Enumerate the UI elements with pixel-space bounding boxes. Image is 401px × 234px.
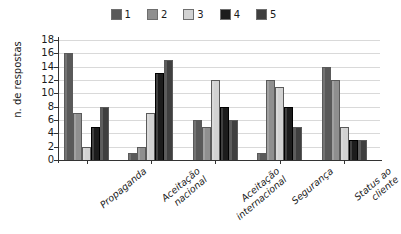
bar-group-2: [128, 40, 173, 160]
bar-series3-cat4[interactable]: [275, 87, 284, 160]
bar-series2-cat3[interactable]: [202, 127, 211, 160]
bar-series3-cat2[interactable]: [146, 113, 155, 160]
x-axis-label-line: internacional: [235, 174, 290, 222]
chart-legend: 12345: [0, 9, 387, 20]
bar-series3-cat3[interactable]: [211, 80, 220, 160]
bar-series5-cat5[interactable]: [358, 140, 367, 160]
legend-entry-3[interactable]: 3: [183, 9, 203, 20]
legend-swatch-4: [220, 9, 231, 20]
bar-group-5: [322, 40, 367, 160]
bar-series2-cat2[interactable]: [137, 147, 146, 160]
x-axis-label-line: Aceitação: [160, 166, 203, 204]
y-tick-mark: [54, 40, 58, 41]
legend-entry-2[interactable]: 2: [147, 9, 167, 20]
y-tick-mark: [54, 80, 58, 81]
y-tick-label: 14: [41, 62, 54, 72]
y-tick-mark: [54, 107, 58, 108]
bar-group-4: [257, 40, 302, 160]
bar-group-3: [193, 40, 238, 160]
bar-series4-cat5[interactable]: [349, 140, 358, 160]
legend-label-2: 2: [161, 10, 167, 20]
y-tick-mark: [54, 147, 58, 148]
x-axis-label-line: cliente: [360, 174, 401, 211]
x-tick-mark: [215, 160, 216, 164]
legend-entry-1[interactable]: 1: [111, 9, 131, 20]
x-axis-label-line: nacional: [167, 174, 210, 212]
y-tick-label: 12: [41, 75, 54, 85]
x-axis-label-line: Segurança: [290, 166, 336, 207]
bar-series4-cat4[interactable]: [284, 107, 293, 160]
x-axis-label-3: Aceitaçãointernacional: [228, 166, 290, 223]
bar-series1-cat3[interactable]: [193, 120, 202, 160]
x-axis-label-line: Propaganda: [98, 166, 149, 211]
legend-entry-4[interactable]: 4: [220, 9, 240, 20]
bar-series5-cat3[interactable]: [229, 120, 238, 160]
bar-series1-cat5[interactable]: [322, 67, 331, 160]
bar-series1-cat1[interactable]: [64, 53, 73, 160]
legend-label-3: 3: [197, 10, 203, 20]
y-tick-label: 18: [41, 35, 54, 45]
x-axis-label-5: Status aocliente: [353, 166, 401, 212]
x-axis-label-4: Segurança: [290, 166, 336, 207]
bar-series4-cat2[interactable]: [155, 73, 164, 160]
x-tick-mark: [280, 160, 281, 164]
legend-label-1: 1: [125, 10, 131, 20]
bar-group-1: [64, 40, 109, 160]
x-tick-mark: [151, 160, 152, 164]
y-axis-title: n. de respostas: [12, 25, 23, 135]
x-tick-mark: [87, 160, 88, 164]
x-tick-mark: [344, 160, 345, 164]
bar-series5-cat4[interactable]: [293, 127, 302, 160]
x-axis-label-line: Status ao: [353, 166, 394, 203]
x-axis-label-line: Aceitação: [228, 166, 283, 214]
legend-swatch-3: [183, 9, 194, 20]
legend-swatch-1: [111, 9, 122, 20]
y-tick-mark: [54, 133, 58, 134]
y-tick-mark: [54, 53, 58, 54]
bar-series2-cat1[interactable]: [73, 113, 82, 160]
legend-swatch-5: [256, 9, 267, 20]
bar-series3-cat5[interactable]: [340, 127, 349, 160]
bar-series5-cat2[interactable]: [164, 60, 173, 160]
bar-series4-cat3[interactable]: [220, 107, 229, 160]
legend-label-4: 4: [234, 10, 240, 20]
plot-area-wrapper: [58, 40, 380, 160]
y-axis-line: [58, 37, 59, 163]
y-tick-label: 16: [41, 48, 54, 58]
bar-series3-cat1[interactable]: [82, 147, 91, 160]
y-tick-mark: [54, 93, 58, 94]
bar-series1-cat2[interactable]: [128, 153, 137, 160]
y-axis-tick-labels: 024681012141618: [24, 40, 54, 160]
legend-entry-5[interactable]: 5: [256, 9, 276, 20]
y-tick-label: 10: [41, 88, 54, 98]
bar-series2-cat5[interactable]: [331, 80, 340, 160]
legend-label-5: 5: [270, 10, 276, 20]
bar-series1-cat4[interactable]: [257, 153, 266, 160]
legend-swatch-2: [147, 9, 158, 20]
x-axis-line: [58, 160, 382, 161]
x-axis-label-1: Propaganda: [98, 166, 149, 211]
bar-series2-cat4[interactable]: [266, 80, 275, 160]
x-axis-label-2: Aceitaçãonacional: [160, 166, 210, 213]
y-tick-mark: [54, 120, 58, 121]
bar-series5-cat1[interactable]: [100, 107, 109, 160]
y-tick-mark: [54, 67, 58, 68]
bar-series4-cat1[interactable]: [91, 127, 100, 160]
y-tick-mark: [54, 160, 58, 161]
